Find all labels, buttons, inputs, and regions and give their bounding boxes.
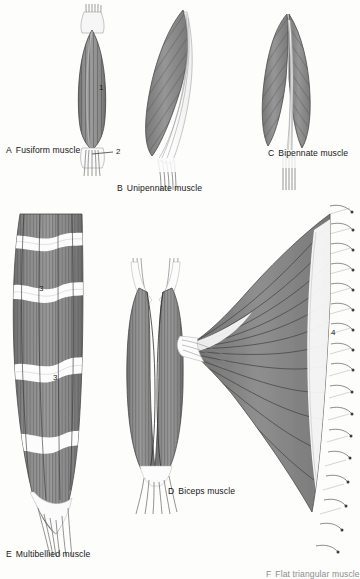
caption-fusiform: AFusiform muscle <box>6 145 80 155</box>
caption-flat-triangular: FFlat triangular muscle <box>266 569 360 579</box>
caption-letter-b: B <box>117 183 123 193</box>
caption-label-a: Fusiform muscle <box>16 145 81 155</box>
caption-unipennate: BUnipennate muscle <box>117 183 202 193</box>
callout-2-tendon: 2 <box>116 147 120 156</box>
caption-label-f: Flat triangular muscle <box>275 569 359 579</box>
caption-letter-a: A <box>6 145 12 155</box>
caption-letter-c: C <box>268 148 274 158</box>
caption-biceps: DBiceps muscle <box>168 486 235 496</box>
caption-label-b: Unipennate muscle <box>127 183 202 193</box>
caption-bipennate: CBipennate muscle <box>268 148 348 158</box>
muscle-types-figure: AFusiform muscle BUnipennate muscle CBip… <box>0 0 360 579</box>
callout-3-tendinous-intersection-upper: 3 <box>39 284 43 293</box>
caption-label-c: Bipennate muscle <box>278 148 348 158</box>
callout-1-muscle-belly: 1 <box>99 83 103 92</box>
caption-letter-f: F <box>266 569 271 579</box>
callout-4-aponeurosis: 4 <box>331 328 335 337</box>
callout-3-tendinous-intersection-lower: 3 <box>53 373 57 382</box>
caption-multibellied: EMultibellied muscle <box>6 549 90 559</box>
caption-label-e: Multibellied muscle <box>16 549 91 559</box>
caption-label-d: Biceps muscle <box>178 486 235 496</box>
caption-letter-d: D <box>168 486 174 496</box>
caption-letter-e: E <box>6 549 12 559</box>
